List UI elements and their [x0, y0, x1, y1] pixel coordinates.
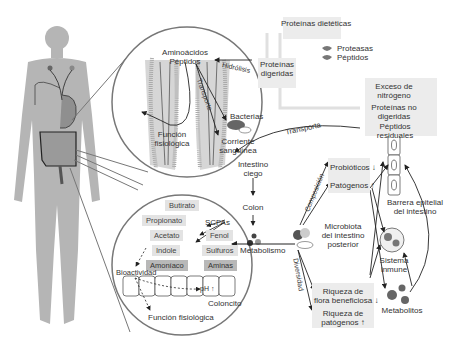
undigested-proteins-1: Proteínas no	[366, 103, 422, 112]
microbiota-label-3: posterior	[315, 240, 371, 249]
microbiota-label-1: Microbiota	[315, 222, 371, 231]
excess-nitrogen-1: Exceso de	[368, 82, 420, 91]
pathogen-richness-2: patógenos ↑	[314, 318, 372, 327]
bloodstream-1: Corriente	[218, 137, 258, 146]
digested-proteins-label-1: Proteínas	[258, 60, 296, 69]
sulfides-pill: Sulfuros	[202, 245, 238, 256]
epithelial-barrier-2: del intestino	[385, 207, 445, 216]
metabolites-label: Metabolitos	[378, 306, 426, 315]
si-peptides-label: Péptidos	[160, 57, 210, 66]
butyrate-pill: Butirato	[165, 200, 199, 211]
colon-function-label: Función fisiológica	[148, 313, 214, 322]
residual-peptides-1: Péptidos	[370, 122, 420, 131]
indole-pill: Indole	[152, 245, 180, 256]
digested-proteins-label-2: digeridas	[258, 69, 296, 78]
beneficial-richness-1: Riqueza de	[314, 287, 372, 296]
human-body-silhouette	[14, 26, 100, 324]
cecum-label-1: Intestino	[234, 160, 272, 169]
propionate-pill: Propionato	[142, 215, 186, 226]
immune-system-2: inmune	[378, 265, 410, 274]
peptides-label: Péptidos	[337, 53, 368, 62]
colon-label: Colon	[240, 203, 266, 212]
epithelial-barrier-1: Barrera epitelial	[385, 198, 445, 207]
bioactivity-label: Bioactividad	[116, 268, 156, 277]
cecum-label-2: ciego	[234, 169, 272, 178]
scfas-label: SCFAs	[205, 218, 230, 227]
immune-system-1: Sistema	[378, 256, 410, 265]
proteases-label: Proteasas	[337, 44, 373, 53]
si-function-2: fisiológica	[152, 139, 192, 148]
probiotics-label: Probióticos ↓	[330, 163, 376, 172]
phenol-pill: Fenol	[206, 230, 233, 241]
ph-label: pH ↑	[200, 284, 214, 293]
dietary-proteins-label: Proteínas dietéticas	[281, 19, 345, 28]
pathogens-label: Patógenos ↑	[330, 181, 374, 190]
amines-pill: Aminas	[204, 260, 237, 271]
pathogen-richness-1: Riqueza de	[314, 309, 372, 318]
excess-nitrogen-2: nitrógeno	[368, 91, 420, 100]
colonocyte-label: Coloncito	[208, 299, 241, 308]
acetate-pill: Acetato	[150, 230, 183, 241]
beneficial-richness-2: flora beneficiosa ↓	[314, 296, 372, 305]
bacteria-label: Bacterias	[230, 112, 263, 121]
bloodstream-2: sanguínea	[218, 146, 258, 155]
residual-peptides-2: residuales	[370, 131, 420, 140]
metabolism-label: Metabolismo	[240, 246, 285, 255]
microbiota-label-2: del intestino	[315, 231, 371, 240]
si-function-1: Función	[152, 130, 192, 139]
amino-acids-label: Aminoácidos	[160, 48, 210, 57]
undigested-proteins-2: digeridas	[366, 112, 422, 121]
